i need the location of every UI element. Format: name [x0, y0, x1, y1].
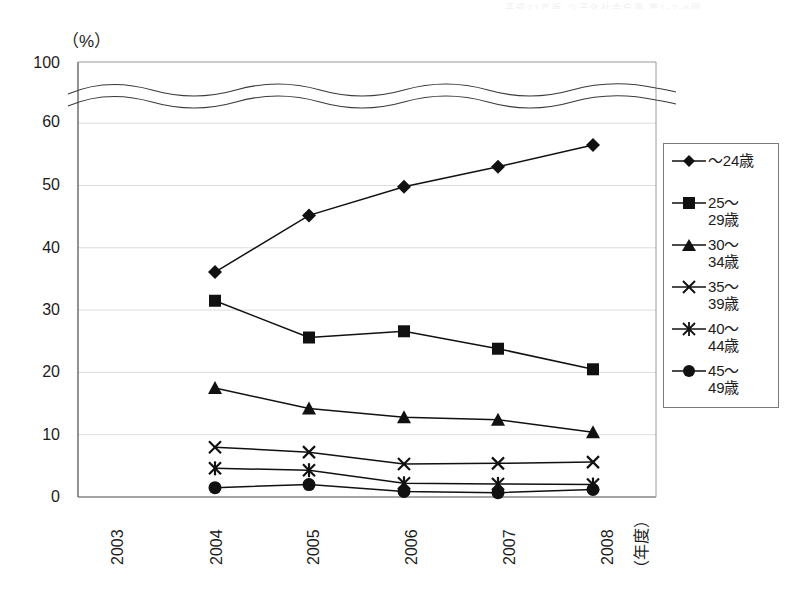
series-line-3: [215, 447, 593, 464]
chart-root: 平成21年版 少子化社会白書 第1-2-8図 （%） 100 60 50 40 …: [0, 0, 799, 592]
legend-item-0[interactable]: ～24歳: [670, 152, 778, 169]
x-tick-label-2005: 2005: [306, 529, 322, 565]
series-lines: [215, 145, 593, 493]
square-data-point: [398, 325, 410, 337]
x-tick-label-2003: 2003: [110, 529, 126, 565]
legend-item-5[interactable]: 45～ 49歳: [670, 362, 778, 396]
x-axis-title: （年度）: [634, 512, 650, 576]
legend-item-2[interactable]: 30～ 34歳: [670, 236, 778, 270]
square-marker-icon: [670, 195, 708, 211]
circle-data-point: [587, 483, 600, 496]
circle-data-point: [209, 481, 222, 494]
diamond-data-point: [208, 265, 222, 279]
legend-label-0: ～24歳: [708, 152, 754, 169]
series-markers: [208, 138, 600, 499]
x-tick-label-2004: 2004: [209, 529, 225, 565]
asterisk-marker-icon: [670, 321, 708, 337]
x-tick-label-2007: 2007: [502, 529, 518, 565]
cross-marker-icon: [670, 279, 708, 295]
circle-data-point: [492, 486, 505, 499]
square-data-point: [492, 343, 504, 355]
legend-item-1[interactable]: 25～ 29歳: [670, 194, 778, 228]
series-line-0: [215, 145, 593, 272]
diamond-data-point: [491, 160, 505, 174]
circle-marker-icon: [670, 363, 708, 379]
series-line-2: [215, 388, 593, 432]
gridlines: [78, 123, 656, 435]
legend: ～24歳 25～ 29歳 30～ 34歳: [663, 143, 779, 408]
diamond-data-point: [302, 208, 316, 222]
legend-label-1: 25～ 29歳: [708, 194, 739, 228]
triangle-data-point: [208, 381, 222, 394]
diamond-data-point: [397, 180, 411, 194]
legend-label-3: 35～ 39歳: [708, 278, 739, 312]
triangle-marker-icon: [670, 237, 708, 253]
x-tick-label-2008: 2008: [600, 529, 616, 565]
circle-data-point: [398, 485, 411, 498]
circle-data-point: [303, 478, 316, 491]
legend-label-4: 40～ 44歳: [708, 320, 739, 354]
legend-item-3[interactable]: 35～ 39歳: [670, 278, 778, 312]
legend-label-2: 30～ 34歳: [708, 236, 739, 270]
legend-label-5: 45～ 49歳: [708, 362, 739, 396]
square-data-point: [209, 295, 221, 307]
plot-frame: [78, 62, 656, 497]
axis-break-squiggle: [68, 84, 676, 108]
x-tick-label-2006: 2006: [404, 529, 420, 565]
diamond-data-point: [586, 138, 600, 152]
square-data-point: [587, 363, 599, 375]
diamond-marker-icon: [670, 153, 708, 169]
legend-item-4[interactable]: 40～ 44歳: [670, 320, 778, 354]
square-data-point: [303, 332, 315, 344]
